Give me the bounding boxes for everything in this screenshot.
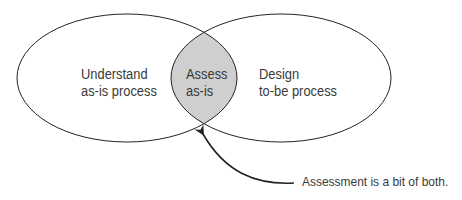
venn-graphics [0, 0, 462, 200]
overlap-label-line2: as-is [186, 83, 228, 100]
right-label-line2: to-be process [259, 83, 337, 100]
left-label-line1: Understand [81, 66, 157, 83]
venn-diagram: Understand as-is process Assess as-is De… [0, 0, 462, 200]
left-label: Understand as-is process [81, 66, 157, 100]
callout-arrow [203, 134, 294, 183]
callout-text: Assessment is a bit of both. [302, 174, 448, 189]
right-label: Design to-be process [259, 66, 337, 100]
right-label-line1: Design [259, 66, 337, 83]
left-label-line2: as-is process [81, 83, 157, 100]
overlap-label-line1: Assess [186, 66, 228, 83]
overlap-label: Assess as-is [186, 66, 228, 100]
